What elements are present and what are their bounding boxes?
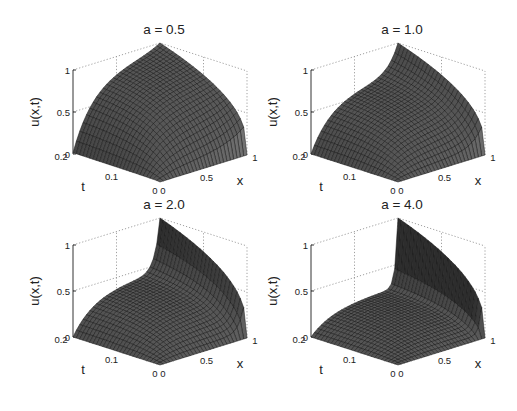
- z-tick-label: 1: [303, 65, 308, 76]
- z-tick-label: 1: [65, 65, 70, 76]
- x-tick-label: 0: [398, 368, 403, 379]
- surface-panel-1: 00.51u(x,t)00.5100.10.2xta = 0.5: [27, 22, 258, 196]
- surface-panel-4: 00.51u(x,t)00.5100.10.2xta = 4.0: [265, 197, 496, 379]
- surface-plots: 00.51u(x,t)00.5100.10.2xta = 0.500.51u(x…: [0, 0, 517, 411]
- z-axis-label: u(x,t): [265, 97, 280, 127]
- t-tick-label: 0.1: [105, 354, 118, 365]
- t-axis-label: t: [81, 362, 85, 377]
- t-tick-label: 0.2: [54, 334, 67, 345]
- t-axis-label: t: [319, 179, 323, 194]
- t-tick-label: 0.1: [105, 171, 118, 182]
- x-tick-label: 1: [252, 335, 257, 346]
- x-axis-label: x: [475, 173, 482, 188]
- t-axis-label: t: [319, 362, 323, 377]
- z-tick-label: 0.5: [295, 107, 308, 118]
- x-tick-label: 0: [160, 368, 165, 379]
- panel-title: a = 2.0: [143, 197, 185, 212]
- surface-mesh: [73, 43, 247, 182]
- z-axis-label: u(x,t): [265, 276, 280, 306]
- surface-mesh: [311, 43, 485, 182]
- x-tick-label: 0.5: [438, 355, 451, 366]
- t-tick-label: 0.2: [292, 334, 305, 345]
- z-tick-label: 1: [65, 240, 70, 251]
- x-axis-label: x: [237, 173, 244, 188]
- x-axis-label: x: [475, 356, 482, 371]
- panel-title: a = 0.5: [143, 22, 185, 37]
- t-tick-label: 0: [152, 185, 157, 196]
- t-tick-label: 0.2: [292, 151, 305, 162]
- z-tick-label: 0.5: [295, 286, 308, 297]
- x-axis-label: x: [237, 356, 244, 371]
- t-tick-label: 0.1: [343, 354, 356, 365]
- x-tick-label: 0.5: [200, 355, 213, 366]
- x-tick-label: 0.5: [438, 172, 451, 183]
- surface-mesh: [73, 218, 247, 365]
- t-tick-label: 0.1: [343, 171, 356, 182]
- z-tick-label: 0.5: [57, 107, 70, 118]
- x-tick-label: 0: [160, 185, 165, 196]
- z-axis-label: u(x,t): [27, 276, 42, 306]
- z-axis-label: u(x,t): [27, 97, 42, 127]
- t-tick-label: 0: [152, 368, 157, 379]
- z-tick-label: 1: [303, 240, 308, 251]
- surface-panel-2: 00.51u(x,t)00.5100.10.2xta = 1.0: [265, 22, 496, 196]
- x-tick-label: 1: [490, 152, 495, 163]
- figure: 00.51u(x,t)00.5100.10.2xta = 0.500.51u(x…: [0, 0, 517, 411]
- z-tick-label: 0.5: [57, 286, 70, 297]
- x-tick-label: 1: [490, 335, 495, 346]
- panel-title: a = 4.0: [381, 197, 423, 212]
- t-tick-label: 0: [390, 185, 395, 196]
- x-tick-label: 0.5: [200, 172, 213, 183]
- surface-panel-3: 00.51u(x,t)00.5100.10.2xta = 2.0: [27, 197, 258, 379]
- x-tick-label: 1: [252, 152, 257, 163]
- t-tick-label: 0.2: [54, 151, 67, 162]
- surface-mesh: [311, 218, 485, 365]
- t-axis-label: t: [81, 179, 85, 194]
- panel-title: a = 1.0: [381, 22, 423, 37]
- t-tick-label: 0: [390, 368, 395, 379]
- x-tick-label: 0: [398, 185, 403, 196]
